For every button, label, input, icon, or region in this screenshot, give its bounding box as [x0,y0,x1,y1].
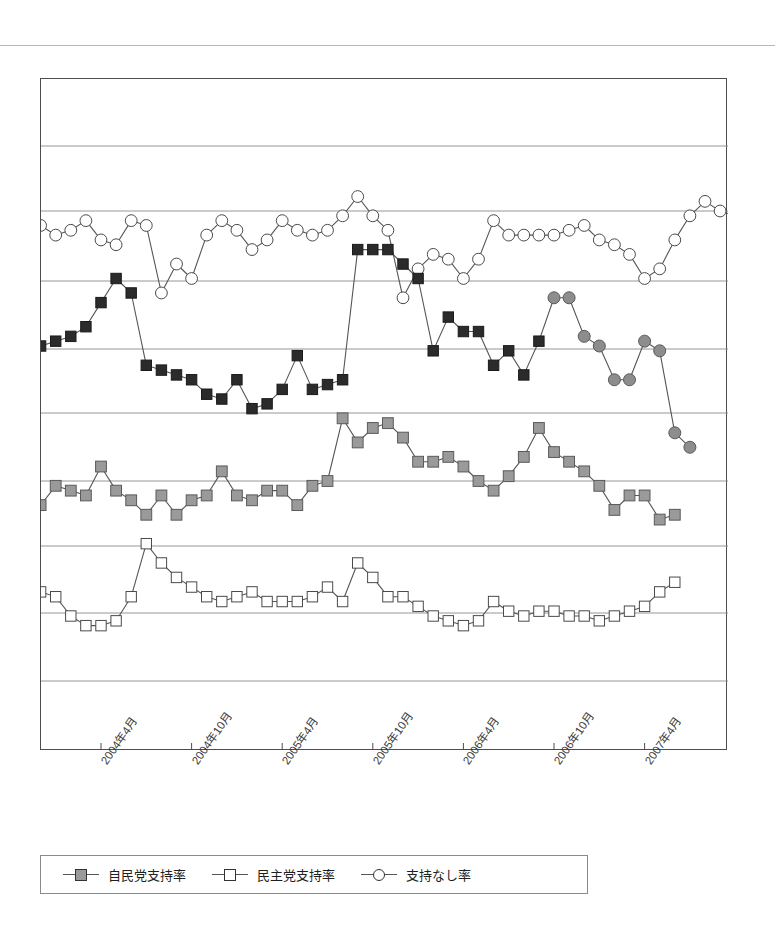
legend-label-ldp: 自民党支持率 [108,865,186,884]
series-内閣支持率 [41,244,544,414]
chart-legend: 自民党支持率 民主党支持率 支持なし率 [40,855,588,894]
chart-canvas [41,79,728,751]
series-内閣支持率(続き) [548,292,696,453]
legend-item-ldp: 自民党支持率 [63,865,186,884]
legend-label-nosupport: 支持なし率 [406,865,471,884]
plot-area [40,78,727,750]
legend-marker-filled-square-icon [63,868,99,882]
legend-marker-open-square-icon [212,868,248,882]
legend-item-nosupport: 支持なし率 [361,865,471,884]
legend-item-dpj: 民主党支持率 [212,865,335,884]
x-axis-labels: 2004年4月 2004年10月 2005年4月 2005年10月 2006年4… [0,752,775,847]
chart-page: 2004年4月 2004年10月 2005年4月 2005年10月 2006年4… [0,0,775,949]
series-layer [41,191,728,631]
series-自民党支持率 [41,413,680,525]
series-民主党支持率 [41,538,680,630]
page-top-rule [0,45,775,46]
legend-marker-open-circle-icon [361,868,397,882]
legend-label-dpj: 民主党支持率 [257,865,335,884]
